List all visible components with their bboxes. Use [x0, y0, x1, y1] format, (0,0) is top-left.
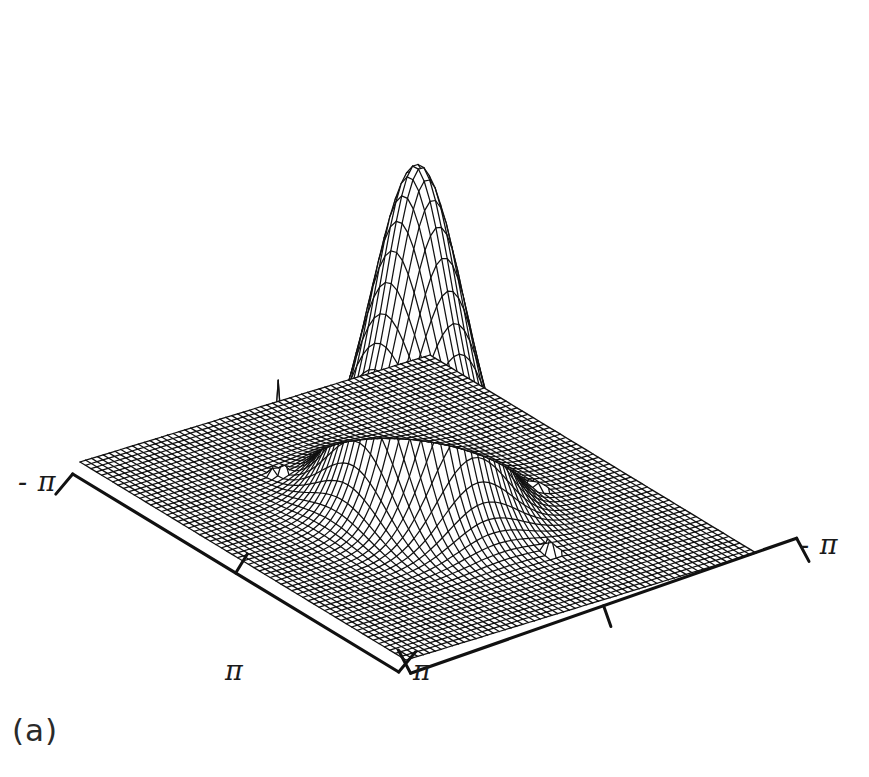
- axis-label-right: - π: [800, 529, 838, 560]
- figure-root: - π - π π π (a): [0, 0, 869, 777]
- axis-label-front-right: π: [413, 655, 432, 686]
- axis-label-left: - π: [18, 466, 56, 497]
- axis-end-cap: [56, 474, 73, 494]
- axis-label-front-left: π: [225, 655, 244, 686]
- axis-tick: [604, 606, 611, 627]
- mesh-surface: [80, 165, 756, 661]
- surface-plot-canvas: [0, 0, 869, 777]
- panel-caption: (a): [12, 712, 58, 748]
